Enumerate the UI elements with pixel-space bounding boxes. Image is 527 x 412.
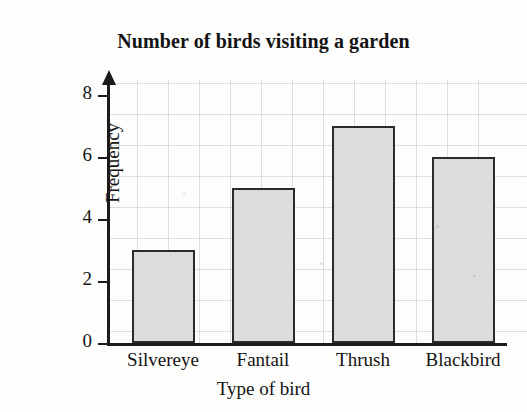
y-axis-title: Frequency (102, 93, 124, 233)
y-axis-tick-label: 4 (83, 207, 93, 227)
y-axis-arrow-icon (102, 70, 116, 85)
bar (432, 157, 495, 343)
y-axis-tick-label: 2 (83, 269, 93, 289)
y-axis-tick-label: 8 (83, 83, 93, 103)
x-axis-line (107, 343, 507, 346)
bar (232, 188, 295, 343)
bar (132, 250, 195, 343)
x-axis-category-label: Fantail (220, 349, 307, 371)
bar (332, 126, 395, 343)
y-axis-tick: 2 (98, 281, 108, 283)
plot-area: 02468 Frequency (107, 80, 507, 345)
chart-title: Number of birds visiting a garden (0, 30, 527, 53)
x-axis-category-label: Blackbird (420, 349, 507, 371)
y-axis-tick: 0 (98, 343, 108, 345)
grid-lines-overflow (507, 80, 527, 345)
y-axis-tick-label: 6 (83, 145, 93, 165)
x-axis-title: Type of bird (0, 378, 527, 400)
y-axis-tick-label: 0 (83, 331, 93, 351)
x-axis-category-label: Thrush (320, 349, 407, 371)
chart-figure: Number of birds visiting a garden 02468 … (0, 0, 527, 412)
x-axis-category-label: Silvereye (120, 349, 207, 371)
